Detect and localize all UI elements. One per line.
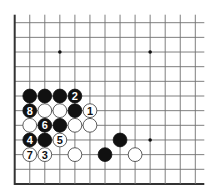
move-number-label: 7 bbox=[27, 149, 33, 161]
black-stone bbox=[38, 89, 52, 103]
black-stone bbox=[68, 104, 82, 118]
star-point-icon bbox=[148, 50, 152, 54]
move-number-label: 4 bbox=[27, 134, 34, 146]
move-number-label: 5 bbox=[57, 134, 63, 146]
black-stone-icon bbox=[98, 148, 112, 162]
white-stone bbox=[68, 118, 82, 132]
black-stone bbox=[113, 133, 127, 147]
white-stone-icon bbox=[128, 148, 142, 162]
white-stone-move-3: 3 bbox=[38, 148, 52, 162]
move-number-label: 8 bbox=[27, 105, 33, 117]
black-stone bbox=[98, 148, 112, 162]
black-stone bbox=[53, 89, 67, 103]
star-point-icon bbox=[58, 50, 62, 54]
white-stone-move-7: 7 bbox=[23, 148, 37, 162]
black-stone-move-6: 6 bbox=[38, 118, 52, 132]
black-stone-move-4: 4 bbox=[23, 133, 37, 147]
white-stone bbox=[83, 118, 97, 132]
black-stone-icon bbox=[23, 89, 37, 103]
black-stone bbox=[23, 89, 37, 103]
go-board: 28164573 bbox=[0, 0, 218, 195]
black-stone-icon bbox=[113, 133, 127, 147]
black-stone-move-8: 8 bbox=[23, 104, 37, 118]
black-stone bbox=[53, 118, 67, 132]
white-stone-icon bbox=[68, 118, 82, 132]
white-stone-icon bbox=[83, 118, 97, 132]
black-stone-icon bbox=[53, 118, 67, 132]
white-stone-move-1: 1 bbox=[83, 104, 97, 118]
white-stone bbox=[68, 148, 82, 162]
white-stone-icon bbox=[23, 118, 37, 132]
white-stone bbox=[53, 104, 67, 118]
white-stone-icon bbox=[38, 104, 52, 118]
move-number-label: 2 bbox=[72, 90, 78, 102]
black-stone-icon bbox=[38, 89, 52, 103]
white-stone-icon bbox=[53, 104, 67, 118]
black-stone-icon bbox=[38, 133, 52, 147]
white-stone bbox=[23, 118, 37, 132]
black-stone-icon bbox=[53, 89, 67, 103]
white-stone-move-5: 5 bbox=[53, 133, 67, 147]
move-number-label: 3 bbox=[42, 149, 48, 161]
black-stone-icon bbox=[68, 104, 82, 118]
black-stone-move-2: 2 bbox=[68, 89, 82, 103]
star-point-icon bbox=[148, 138, 152, 142]
move-number-label: 1 bbox=[87, 105, 93, 117]
black-stone bbox=[38, 133, 52, 147]
white-stone bbox=[38, 104, 52, 118]
white-stone bbox=[128, 148, 142, 162]
white-stone-icon bbox=[68, 148, 82, 162]
move-number-label: 6 bbox=[42, 119, 48, 131]
